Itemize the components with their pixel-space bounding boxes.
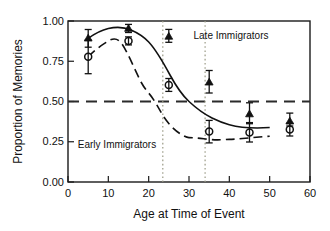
early-immigrators-label: Early Immigrators: [78, 139, 156, 150]
x-tick-label-0: 0: [65, 187, 71, 199]
y-tick-label-3: 0.75: [43, 55, 64, 67]
y-axis-title: Proportion of Memories: [11, 39, 25, 164]
chart-figure: 0.00 0.25 0.50 0.75 1.00 0 10 20 30 40 5…: [0, 0, 330, 231]
late-immigrators-label: Late Immigrators: [193, 30, 268, 41]
x-tick-label-3: 30: [183, 187, 195, 199]
x-tick-label-5: 50: [264, 187, 276, 199]
proportion-of-memories-chart: 0.00 0.25 0.50 0.75 1.00 0 10 20 30 40 5…: [0, 0, 330, 231]
x-tick-label-1: 10: [102, 187, 114, 199]
y-tick-label-2: 0.50: [43, 95, 64, 107]
x-axis-title: Age at Time of Event: [133, 207, 245, 221]
y-tick-label-1: 0.25: [43, 135, 64, 147]
x-tick-label-6: 60: [304, 187, 316, 199]
x-tick-label-4: 40: [223, 187, 235, 199]
x-tick-label-2: 20: [143, 187, 155, 199]
chart-background: [0, 0, 330, 231]
y-tick-label-0: 0.00: [43, 176, 64, 188]
y-tick-label-4: 1.00: [43, 15, 64, 27]
